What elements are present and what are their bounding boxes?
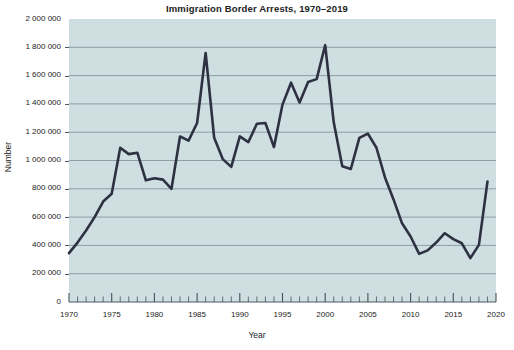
x-tick-label: 2000 <box>305 310 345 319</box>
x-tick-label: 1990 <box>220 310 260 319</box>
chart-title: Immigration Border Arrests, 1970–2019 <box>0 3 514 14</box>
y-tick-label: 200 000 <box>0 268 61 277</box>
x-tick-label: 2015 <box>433 310 473 319</box>
plot-canvas <box>69 19 496 302</box>
x-tick-label: 1985 <box>177 310 217 319</box>
y-tick-label: 400 000 <box>0 240 61 249</box>
x-tick-label: 1970 <box>49 310 89 319</box>
x-tick-label: 2020 <box>476 310 514 319</box>
x-minor-ticks <box>69 293 496 302</box>
x-tick-label: 1975 <box>92 310 132 319</box>
x-tick-label: 1980 <box>134 310 174 319</box>
arrests-line-series <box>69 45 487 258</box>
y-tick-label: 600 000 <box>0 212 61 221</box>
x-tick-label: 2010 <box>391 310 431 319</box>
y-tick-label: 1 600 000 <box>0 70 61 79</box>
x-tick-label: 1995 <box>263 310 303 319</box>
gridlines <box>69 47 496 302</box>
plot-area <box>69 19 496 302</box>
y-axis-label: Number <box>3 127 13 187</box>
y-tick-label: 2 000 000 <box>0 14 61 23</box>
chart-figure: Immigration Border Arrests, 1970–2019 Nu… <box>0 0 514 350</box>
y-tick-label: 0 <box>0 297 61 306</box>
x-axis-label: Year <box>0 330 514 340</box>
y-tick-label: 1 800 000 <box>0 42 61 51</box>
x-tick-label: 2005 <box>348 310 388 319</box>
y-tick-label: 1 400 000 <box>0 98 61 107</box>
